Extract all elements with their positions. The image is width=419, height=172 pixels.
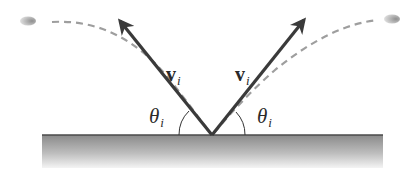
theta-symbol: θ — [149, 104, 159, 128]
velocity-subscript: i — [246, 73, 250, 88]
projectile-launch-diagram — [0, 0, 419, 172]
left-angle-arc — [179, 111, 189, 135]
theta-subscript: i — [160, 115, 164, 130]
left-ball-icon — [20, 17, 36, 26]
right-angle-arc — [236, 112, 245, 135]
ground-surface — [42, 135, 383, 168]
left-trajectory-dashed — [52, 22, 210, 133]
theta-symbol: θ — [257, 104, 267, 128]
left-velocity-label: vi — [166, 64, 181, 84]
theta-subscript: i — [268, 115, 272, 130]
velocity-symbol: v — [166, 63, 176, 85]
velocity-subscript: i — [177, 73, 181, 88]
velocity-symbol: v — [235, 63, 245, 85]
right-ball-icon — [384, 15, 400, 24]
right-angle-label: θi — [257, 106, 272, 127]
left-angle-label: θi — [149, 106, 164, 127]
right-velocity-label: vi — [235, 64, 250, 84]
